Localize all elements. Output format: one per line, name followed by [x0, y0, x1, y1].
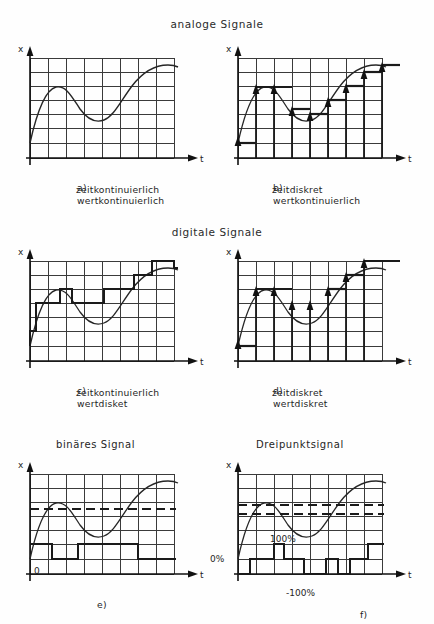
panel-b: x t b) wertkontinuierlich zeitdiskret: [208, 40, 428, 170]
x-axis-arrow: [188, 155, 198, 162]
x-axis-arrow: [188, 358, 198, 365]
y-axis-label: x: [18, 44, 24, 54]
y-axis-label: x: [226, 44, 232, 54]
y-axis-arrow: [235, 462, 242, 472]
panel-d-caption-line2: zeitdiskret: [272, 386, 323, 399]
y-axis-arrow: [27, 46, 34, 56]
panel-a-caption-text1: wertkontinuierlich: [77, 195, 164, 206]
panel-f-title: Dreipunktsignal: [256, 438, 344, 451]
panel-a-plot: x t: [0, 40, 210, 170]
y-axis-label: x: [226, 460, 232, 470]
y-axis-arrow: [235, 249, 242, 259]
panel-b-plot: x t: [208, 40, 428, 170]
panel-c: x t c) wertdisket zeitkontinuierlich: [0, 243, 210, 373]
binary-signal-trace: [30, 544, 176, 559]
panel-f-level-label-zero: 0%: [210, 554, 224, 564]
panel-e-plot: x t: [0, 456, 210, 591]
panel-c-caption-text1: wertdisket: [77, 398, 127, 409]
section-title-digital: digitale Signale: [0, 226, 434, 238]
x-axis-label: t: [408, 570, 412, 580]
panel-f-level-label-hundred: 100%: [270, 534, 296, 544]
panel-a-caption-line2: zeitkontinuierlich: [76, 183, 159, 196]
y-axis-label: x: [18, 247, 24, 257]
y-axis-arrow: [27, 462, 34, 472]
panel-f-plot: x t: [208, 456, 428, 591]
y-axis-arrow: [27, 249, 34, 259]
panel-f-level-label-minus-hundred: -100%: [286, 588, 315, 598]
section-title-analog: analoge Signale: [0, 18, 434, 30]
panel-b-caption-text1: wertkontinuierlich: [273, 195, 360, 206]
x-axis-label: t: [200, 154, 204, 164]
sample-hold-steps: [238, 65, 400, 143]
panel-b-caption-line2: zeitdiskret: [272, 183, 323, 196]
x-axis-arrow: [396, 155, 406, 162]
y-axis-label: x: [18, 460, 24, 470]
panel-d-plot: x t: [208, 243, 428, 373]
x-axis-arrow: [188, 571, 198, 578]
panel-f-label: f): [360, 608, 367, 621]
figure-sheet: analoge Signale x t a) wertkontinuier: [0, 0, 434, 624]
y-axis-label: x: [226, 247, 232, 257]
panel-e-title: binäres Signal: [56, 438, 135, 451]
panel-e-level-label-zero: 0: [34, 566, 40, 576]
x-axis-label: t: [408, 154, 412, 164]
panel-d: x t d) wertdiskret zeitdiskret: [208, 243, 428, 373]
panel-c-plot: x t: [0, 243, 210, 373]
x-axis-label: t: [408, 357, 412, 367]
panel-d-caption-text1: wertdiskret: [273, 398, 328, 409]
x-axis-arrow: [396, 571, 406, 578]
panel-e-label: e): [97, 598, 107, 611]
panel-c-caption-line2: zeitkontinuierlich: [76, 386, 159, 399]
y-axis-arrow: [235, 46, 242, 56]
panel-a: x t a) wertkontinuierlich zeitkontinuier…: [0, 40, 210, 170]
x-axis-label: t: [200, 570, 204, 580]
x-axis-arrow: [396, 358, 406, 365]
x-axis-label: t: [200, 357, 204, 367]
